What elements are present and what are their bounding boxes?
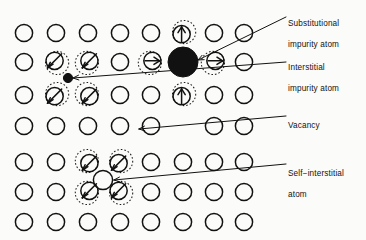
displaced-lattice-atom (110, 149, 133, 172)
self-interstitial-atom (93, 170, 112, 189)
displaced-lattice-atom (75, 82, 98, 105)
lattice-atom (47, 213, 64, 230)
lattice-atom (142, 183, 159, 200)
label-self-interstitial-line2: atom (288, 190, 344, 201)
lattice-atom (47, 117, 64, 134)
label-vacancy: Vacancy (288, 110, 320, 142)
lattice-atom (79, 117, 96, 134)
lattice-atom (15, 183, 32, 200)
label-self-interstitial-atom: Self−interstitial atom (288, 158, 344, 211)
lattice-row (15, 149, 252, 172)
lattice-row (15, 117, 252, 134)
lattice-atom (111, 86, 128, 103)
lattice-rows (15, 20, 252, 230)
lattice-atom (174, 183, 191, 200)
leader-arrowhead-interstitial (73, 78, 79, 80)
lattice-row (15, 181, 252, 204)
lattice-atom (79, 24, 96, 41)
lattice-atom (174, 153, 191, 170)
displaced-lattice-atom (46, 82, 69, 105)
lattice-atom (142, 153, 159, 170)
lattice-atom (111, 24, 128, 41)
lattice-row (15, 213, 252, 230)
lattice-atom (47, 153, 64, 170)
lattice-row (15, 47, 252, 77)
lattice-atom (205, 153, 222, 170)
displaced-lattice-atom (46, 51, 69, 74)
lattice-atom (205, 213, 222, 230)
lattice-atom (235, 24, 252, 41)
substitutional-impurity-atom (168, 47, 198, 77)
lattice-atom (15, 53, 32, 70)
displaced-lattice-atom (110, 181, 133, 204)
label-substitutional-line2: impurity atom (288, 40, 339, 51)
lattice-atom (15, 153, 32, 170)
lattice-atom (15, 24, 32, 41)
displaced-lattice-atom (173, 20, 196, 43)
lattice-atom (142, 213, 159, 230)
lattice-row (15, 82, 252, 105)
lattice-atom (47, 24, 64, 41)
lattice-atom (111, 53, 128, 70)
label-vacancy-line1: Vacancy (288, 121, 320, 132)
lattice-atom (235, 213, 252, 230)
lattice-row (15, 20, 252, 43)
lattice-atom (15, 213, 32, 230)
lattice-atom (142, 24, 159, 41)
lattice-atom (79, 213, 96, 230)
label-substitutional-line1: Substitutional (288, 19, 339, 30)
leader-line-self_interstitial (114, 164, 286, 180)
label-interstitial-line2: impurity atom (288, 84, 339, 95)
lattice-atom (205, 86, 222, 103)
displaced-lattice-atom (201, 51, 224, 74)
lattice-atom (174, 213, 191, 230)
figure-canvas: Substitutional impurity atom Interstitia… (0, 0, 366, 240)
lattice-atom (235, 86, 252, 103)
lattice-atom (111, 213, 128, 230)
displaced-lattice-atom (75, 149, 98, 172)
lattice-atom (15, 117, 32, 134)
lattice-atom (111, 117, 128, 134)
displaced-lattice-atom (173, 82, 196, 105)
interstitial-impurity-atom (63, 73, 72, 82)
lattice-atom (235, 183, 252, 200)
label-self-interstitial-line1: Self−interstitial (288, 169, 344, 180)
lattice-atom (235, 53, 252, 70)
leader-lines (73, 17, 286, 182)
lattice-atom (205, 117, 222, 134)
label-interstitial-impurity-atom: Interstitial impurity atom (288, 52, 339, 105)
lattice-atom (15, 86, 32, 103)
leader-arrowhead-self_interstitial (114, 180, 120, 182)
displaced-lattice-atom (75, 51, 98, 74)
lattice-atom (205, 24, 222, 41)
displaced-lattice-atom (138, 51, 161, 74)
lattice-atom (142, 86, 159, 103)
lattice-atom (205, 183, 222, 200)
lattice-atom (47, 183, 64, 200)
lattice-atom (142, 117, 159, 134)
label-interstitial-line1: Interstitial (288, 63, 339, 74)
